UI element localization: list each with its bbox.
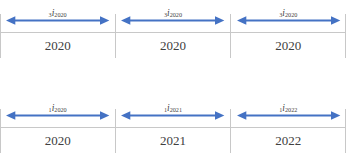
rate-symbol: 3i2020 (160, 9, 186, 19)
rate-year-subscript: 2020 (54, 11, 66, 18)
year-label: 2020 (0, 128, 115, 153)
rate-year-subscript: 2021 (170, 106, 182, 113)
timeline-segment: 1i2021 (115, 105, 230, 127)
timeline-segment: 3i2020 (115, 10, 230, 32)
rate-symbol: 3i2020 (275, 9, 301, 19)
year-label: 2020 (115, 33, 230, 58)
timeline-segment: 3i2020 (231, 10, 346, 32)
rate-year-subscript: 2020 (170, 11, 182, 18)
rate-year-subscript: 2020 (285, 11, 297, 18)
timeline-segment: 3i2020 (0, 10, 115, 32)
year-label: 2020 (231, 33, 346, 58)
timeline-segment: 1i2020 (0, 105, 115, 127)
timeline-segment: 1i2022 (231, 105, 346, 127)
year-label-strip: 2020 2021 2022 (0, 128, 346, 153)
year-label: 2020 (0, 33, 115, 58)
year-label-strip: 2020 2020 2020 (0, 33, 346, 58)
rate-year-subscript: 2020 (54, 106, 66, 113)
timeline-one-year: 1i2020 1i2021 (0, 105, 346, 153)
rate-symbol: 1i2021 (160, 104, 186, 114)
rate-year-subscript: 2022 (285, 106, 297, 113)
rate-symbol: 1i2022 (275, 104, 301, 114)
segment-strip: 1i2020 1i2021 (0, 105, 346, 127)
rate-symbol: 1i2020 (45, 104, 71, 114)
timeline-three-year: 3i2020 3i2020 (0, 10, 346, 58)
year-label: 2021 (115, 128, 230, 153)
year-label: 2022 (231, 128, 346, 153)
rate-symbol: 3i2020 (45, 9, 71, 19)
segment-strip: 3i2020 3i2020 (0, 10, 346, 32)
